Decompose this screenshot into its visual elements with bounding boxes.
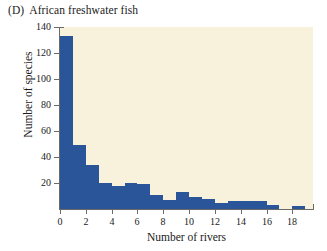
plot-area (60, 27, 313, 209)
histogram-bars (60, 27, 313, 209)
histogram-bar (99, 183, 112, 209)
x-axis-tick-label: 4 (100, 216, 124, 228)
x-axis-tick-label: 6 (125, 216, 149, 228)
x-axis-tick-mark (189, 209, 190, 214)
y-axis-tick-mark (54, 79, 60, 80)
x-axis-tick-mark (86, 209, 87, 214)
y-axis-tick-label: 20 (3, 178, 51, 188)
histogram-bar (163, 200, 176, 209)
histogram-bar (73, 145, 86, 209)
x-axis-line (59, 209, 314, 210)
x-axis-tick-mark (137, 209, 138, 214)
histogram-bar (86, 165, 99, 209)
x-axis-tick-label: 2 (74, 216, 98, 228)
y-axis-title: Number of species (22, 10, 35, 180)
histogram-bar (125, 183, 138, 209)
x-axis-title: Number of rivers (60, 231, 313, 244)
y-axis-tick-mark (54, 27, 60, 28)
x-axis-tick-label: 0 (48, 216, 72, 228)
x-axis-tick-label: 8 (151, 216, 175, 228)
x-axis-tick-mark (267, 209, 268, 214)
x-axis-tick-mark (163, 209, 164, 214)
y-axis-tick-mark (54, 183, 60, 184)
histogram-bar (112, 186, 125, 209)
y-axis-tick-mark (54, 131, 60, 132)
x-axis-tick-mark (60, 209, 61, 214)
figure-panel: (D)African freshwater fish 2040608010012… (0, 0, 327, 251)
histogram-bar (137, 184, 150, 209)
histogram-bar (189, 197, 202, 209)
panel-title-text: African freshwater fish (29, 4, 138, 16)
x-axis-tick-label: 12 (203, 216, 227, 228)
x-axis-tick-label: 16 (255, 216, 279, 228)
x-axis-right-cap (313, 204, 314, 210)
y-axis-tick-mark (54, 157, 60, 158)
histogram-bar (254, 201, 267, 209)
x-axis-tick-label: 10 (177, 216, 201, 228)
y-axis-tick-mark (54, 53, 60, 54)
histogram-bar (228, 201, 241, 209)
x-axis-tick-mark (292, 209, 293, 214)
x-axis-tick-mark (241, 209, 242, 214)
histogram-bar (60, 36, 73, 209)
x-axis-tick-label: 14 (229, 216, 253, 228)
y-axis-tick-mark (54, 105, 60, 106)
histogram-bar (176, 192, 189, 209)
x-axis-tick-label: 18 (280, 216, 304, 228)
x-axis-tick-mark (112, 209, 113, 214)
histogram-bar (241, 201, 254, 209)
histogram-bar (202, 199, 215, 209)
histogram-bar (150, 195, 163, 209)
x-axis-tick-mark (215, 209, 216, 214)
